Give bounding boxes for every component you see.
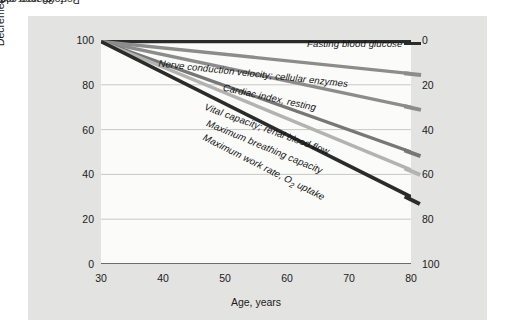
- series-line-maximum-breathing-capacity: [101, 42, 411, 170]
- x-tick-30: 30: [95, 272, 107, 284]
- y-tick-left-20: 20: [66, 213, 94, 225]
- y-tick-right-0: 0: [422, 34, 428, 46]
- y-tick-left-60: 60: [66, 124, 94, 136]
- x-tick-80: 80: [405, 272, 417, 284]
- series-label-fasting-blood-glucose: Fasting blood glucose: [307, 38, 402, 49]
- y-tick-right-20: 20: [422, 79, 434, 91]
- y-tick-right-100: 100: [422, 258, 440, 270]
- x-tick-50: 50: [219, 272, 231, 284]
- x-tick-70: 70: [343, 272, 355, 284]
- series-swatch-fasting-blood-glucose: [404, 42, 421, 46]
- x-tick-60: 60: [281, 272, 293, 284]
- y-tick-right-60: 60: [422, 168, 434, 180]
- y-tick-left-40: 40: [66, 168, 94, 180]
- x-axis-title: Age, years: [231, 296, 281, 308]
- y-tick-right-80: 80: [422, 213, 434, 225]
- y-axis-left-title-line2: 30-year-old, percent: [0, 0, 53, 6]
- chart-figure: Performance compared with average 30-yea…: [0, 0, 515, 336]
- x-tick-40: 40: [157, 272, 169, 284]
- y-tick-left-80: 80: [66, 79, 94, 91]
- y-tick-right-40: 40: [422, 124, 434, 136]
- y-tick-left-0: 0: [66, 258, 94, 270]
- y-tick-left-100: 100: [66, 34, 94, 46]
